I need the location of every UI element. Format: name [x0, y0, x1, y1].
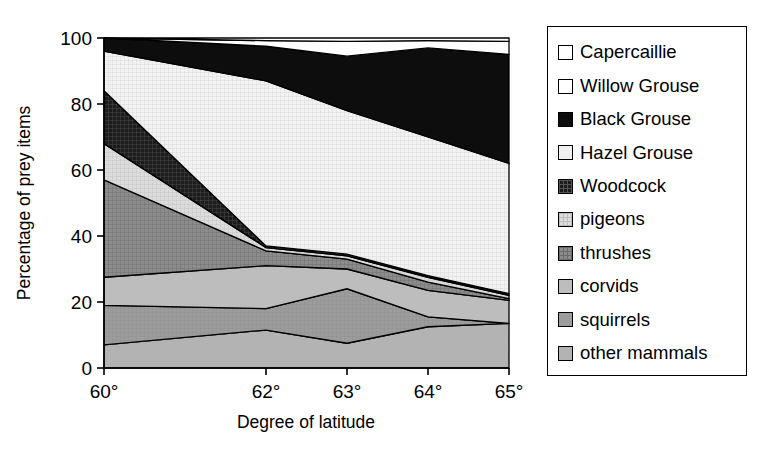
legend-item-label: corvids — [580, 277, 639, 296]
legend-item-label: Capercaillie — [580, 43, 677, 62]
y-tick-label: 20 — [71, 292, 92, 313]
swatch-black-grouse — [558, 112, 573, 127]
legend-item-woodcock[interactable]: Woodcock — [558, 170, 746, 203]
y-axis-title: Percentage of prey items — [14, 105, 34, 300]
legend-item-black-grouse[interactable]: Black Grouse — [558, 103, 746, 136]
swatch-squirrels — [558, 312, 573, 327]
x-axis-title: Degree of latitude — [237, 412, 375, 432]
legend: CapercaillieWillow GrouseBlack GrouseHaz… — [547, 26, 747, 376]
y-tick-label: 60 — [71, 160, 92, 181]
swatch-hazel-grouse — [558, 145, 573, 160]
legend-item-squirrels[interactable]: squirrels — [558, 303, 746, 336]
legend-list: CapercaillieWillow GrouseBlack GrouseHaz… — [548, 27, 746, 370]
swatch-other-mammals — [558, 346, 573, 361]
legend-item-willow-grouse[interactable]: Willow Grouse — [558, 69, 746, 102]
legend-item-pigeons[interactable]: pigeons — [558, 203, 746, 236]
y-tick-label: 0 — [81, 358, 92, 379]
area-bands — [104, 38, 509, 368]
stacked-area-chart: 100806040200 60°62°63°64°65° Percentage … — [0, 0, 758, 454]
legend-item-label: squirrels — [580, 311, 650, 330]
y-tick-labels: 100806040200 — [60, 28, 92, 379]
legend-item-label: Willow Grouse — [580, 77, 699, 96]
x-tick-label: 62° — [252, 381, 281, 402]
x-tick-label: 63° — [333, 381, 362, 402]
swatch-woodcock — [558, 179, 573, 194]
legend-item-label: other mammals — [580, 344, 707, 363]
swatch-capercaillie — [558, 45, 573, 60]
y-tick-label: 40 — [71, 226, 92, 247]
swatch-willow-grouse — [558, 79, 573, 94]
swatch-corvids — [558, 279, 573, 294]
legend-item-label: pigeons — [580, 210, 645, 229]
legend-item-other-mammals[interactable]: other mammals — [558, 337, 746, 370]
x-tick-marks — [104, 368, 509, 375]
y-tick-label: 100 — [60, 28, 92, 49]
y-tick-marks — [97, 38, 104, 368]
y-tick-label: 80 — [71, 94, 92, 115]
legend-item-corvids[interactable]: corvids — [558, 270, 746, 303]
x-tick-label: 60° — [90, 381, 119, 402]
legend-item-label: Black Grouse — [580, 110, 691, 129]
x-tick-labels: 60°62°63°64°65° — [90, 381, 524, 402]
legend-item-hazel-grouse[interactable]: Hazel Grouse — [558, 136, 746, 169]
swatch-pigeons — [558, 212, 573, 227]
swatch-thrushes — [558, 246, 573, 261]
x-tick-label: 65° — [495, 381, 524, 402]
x-tick-label: 64° — [414, 381, 443, 402]
legend-item-label: Woodcock — [580, 177, 666, 196]
legend-item-label: Hazel Grouse — [580, 144, 693, 163]
legend-item-thrushes[interactable]: thrushes — [558, 236, 746, 269]
legend-item-capercaillie[interactable]: Capercaillie — [558, 36, 746, 69]
legend-item-label: thrushes — [580, 244, 651, 263]
